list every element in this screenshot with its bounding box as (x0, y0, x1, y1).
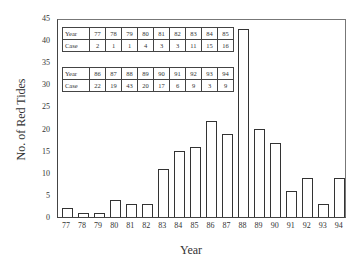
x-tick-label: 90 (267, 221, 283, 230)
table-cell-case: 1 (106, 40, 122, 52)
table-cell-case: 20 (138, 80, 154, 92)
table-cell-case: 4 (138, 40, 154, 52)
table-cell-year: 78 (106, 28, 122, 40)
table-cell-year: 86 (90, 68, 106, 80)
y-tick-label: 40 (34, 37, 50, 45)
y-tick-label: 25 (34, 103, 50, 111)
bar-80 (110, 200, 121, 218)
table-cell-case: 2 (90, 40, 106, 52)
table-cell-year: 90 (154, 68, 170, 80)
x-tick-label: 89 (251, 221, 267, 230)
table-cell-year: 88 (122, 68, 138, 80)
bar-86 (206, 121, 217, 217)
y-tick-label: 20 (34, 126, 50, 134)
y-tick-label: 30 (34, 81, 50, 89)
table-cell-year: 84 (202, 28, 218, 40)
x-tick-label: 84 (170, 221, 186, 230)
x-tick-label: 86 (202, 221, 218, 230)
x-tick-label: 85 (186, 221, 202, 230)
table-cell-year: 94 (218, 68, 234, 80)
y-tick-label: 10 (34, 170, 50, 178)
x-tick-label: 79 (90, 221, 106, 230)
y-tick-label: 15 (34, 148, 50, 156)
x-tick-label: 81 (122, 221, 138, 230)
table-cell-case: 22 (90, 80, 106, 92)
table-cell-year: 77 (90, 28, 106, 40)
x-tick-label: 82 (138, 221, 154, 230)
table-cell-year: 79 (122, 28, 138, 40)
bar-90 (270, 143, 281, 217)
x-tick-label: 92 (299, 221, 315, 230)
table-cell-case: 6 (170, 80, 186, 92)
table-header-year: Year (63, 28, 90, 40)
bar-84 (174, 151, 185, 217)
table-cell-case: 17 (154, 80, 170, 92)
y-tick-label: 5 (34, 192, 50, 200)
table-cell-case: 1 (122, 40, 138, 52)
y-tick-label: 0 (34, 214, 50, 222)
table-cell-case: 43 (122, 80, 138, 92)
bar-92 (302, 178, 313, 217)
x-tick-label: 80 (106, 221, 122, 230)
y-tick-label: 35 (34, 59, 50, 67)
table-cell-year: 82 (170, 28, 186, 40)
bar-91 (286, 191, 297, 217)
bar-85 (190, 147, 201, 217)
table-cell-case: 3 (154, 40, 170, 52)
table-cell-year: 92 (186, 68, 202, 80)
bar-79 (94, 213, 105, 217)
bar-78 (78, 213, 89, 217)
table-cell-year: 89 (138, 68, 154, 80)
bar-89 (254, 129, 265, 217)
table-header-case: Case (63, 80, 90, 92)
table-cell-case: 19 (106, 80, 122, 92)
table-header-year: Year (63, 68, 90, 80)
table-cell-year: 93 (202, 68, 218, 80)
table-cell-case: 9 (218, 80, 234, 92)
bar-93 (318, 204, 329, 217)
table-cell-case: 3 (170, 40, 186, 52)
x-axis-label: Year (180, 243, 202, 258)
bar-94 (334, 178, 345, 217)
table-header-case: Case (63, 40, 90, 52)
bar-87 (222, 134, 233, 217)
data-table-1977-1985: Year777879808182838485Case211433111516 (62, 27, 234, 52)
table-cell-case: 11 (186, 40, 202, 52)
table-cell-year: 91 (170, 68, 186, 80)
x-tick-label: 77 (58, 221, 74, 230)
table-cell-case: 9 (186, 80, 202, 92)
y-tick-label: 45 (34, 15, 50, 23)
x-tick-label: 94 (331, 221, 347, 230)
bar-88 (238, 29, 249, 217)
x-tick-label: 93 (315, 221, 331, 230)
table-cell-case: 15 (202, 40, 218, 52)
table-cell-year: 81 (154, 28, 170, 40)
table-cell-year: 80 (138, 28, 154, 40)
x-tick-label: 83 (154, 221, 170, 230)
y-axis-label: No. of Red Tides (14, 65, 29, 175)
x-tick-label: 78 (74, 221, 90, 230)
x-tick-label: 88 (235, 221, 251, 230)
bar-77 (62, 208, 73, 217)
data-table-1986-1994: Year868788899091929394Case22194320176939 (62, 67, 234, 92)
table-cell-year: 85 (218, 28, 234, 40)
bar-81 (126, 204, 137, 217)
table-cell-case: 16 (218, 40, 234, 52)
x-tick-label: 87 (219, 221, 235, 230)
table-cell-case: 3 (202, 80, 218, 92)
table-cell-year: 83 (186, 28, 202, 40)
x-tick-label: 91 (283, 221, 299, 230)
bar-83 (158, 169, 169, 217)
table-cell-year: 87 (106, 68, 122, 80)
bar-82 (142, 204, 153, 217)
